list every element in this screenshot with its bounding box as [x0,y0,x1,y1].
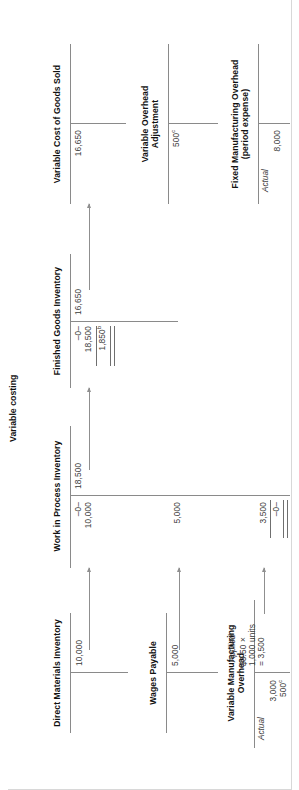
account-title-variable-overhead-adjustment-line2: Adjustment [150,38,161,210]
t-stem-fixed-manufacturing-overhead [258,123,290,124]
t-bar-direct-materials-inventory [70,613,71,733]
amount-vcogs-debit-1: 16,650 [73,130,83,194]
amount-vmoh-actual-2-superscript: c [277,680,283,683]
amount-vmoh-actual-1: 3,000 [268,680,278,742]
flow-arrow-vmoh-to-wip [264,568,265,614]
amount-voa-debit-1: 500c [171,130,181,194]
account-title-fixed-manufacturing-overhead-line1: Fixed Manufacturing Overhead [230,30,241,218]
t-bar-fixed-manufacturing-overhead [258,44,259,204]
amount-wip-debit-1: 10,000 [83,502,93,564]
account-title-variable-cost-of-goods-sold: Variable Cost of Goods Sold [52,38,63,210]
amount-wip-debit-3: 3,500 [258,502,268,564]
account-title-wages-payable: Wages Payable [148,608,159,738]
amount-fg-balance: 1,850b [97,326,107,390]
amount-dm-credit: 10,000 [74,640,84,666]
account-title-work-in-process-inventory: Work in Process Inventory [52,418,63,574]
t-bar-wages-payable [166,613,167,733]
flow-arrow-wip-to-fg [89,388,90,470]
amount-fmoh-debit-1: 8,000 [272,130,282,194]
t-stem-finished-goods-inventory [70,321,178,322]
amount-vmoh-actual-2-value: 500 [278,683,288,697]
t-bar-variable-cost-of-goods-sold [70,44,71,204]
t-bar-variable-overhead-adjustment [168,44,169,204]
amount-wip-beginning-balance: –0– [73,502,83,564]
t-stem-direct-materials-inventory [70,672,128,673]
amount-fg-debit-1: 18,500 [83,326,93,388]
amount-voa-debit-1-value: 500 [171,133,181,147]
page-edge-bottom [291,0,292,790]
account-title-direct-materials-inventory: Direct Materials Inventory [52,608,63,738]
t-stem-variable-cost-of-goods-sold [70,123,126,124]
t-bar-variable-manufacturing-overhead [254,600,255,748]
label-vmoh-applied: Applied [228,635,237,662]
t-stem-variable-overhead-adjustment [168,123,218,124]
amount-fg-balance-superscript: b [96,326,102,329]
amount-voa-debit-1-superscript: c [170,130,176,133]
account-title-variable-manufacturing-overhead-line1: Variable Manufacturing [226,590,237,756]
amount-wip-debit-2: 5,000 [172,502,182,564]
account-title-fixed-manufacturing-overhead-line2: (period expense) [240,30,251,218]
account-title-variable-manufacturing-overhead-line2: Overhead [236,590,247,756]
amount-vmoh-applied-3: = 3,500 [256,637,266,666]
t-stem-work-in-process-inventory [70,495,290,496]
figure-title: Variable costing [8,375,18,442]
account-title-variable-overhead-adjustment-line1: Variable Overhead [140,38,151,210]
t-stem-variable-manufacturing-overhead [254,672,290,673]
double-rule-wip [283,500,288,538]
rotated-figure-wrapper: Variable costing Direct Materials Invent… [0,0,299,790]
label-vmoh-actual: Actual [257,717,266,740]
amount-fg-credit: 16,650 [73,289,83,315]
variable-costing-flow-diagram: Variable costing Direct Materials Invent… [0,0,299,790]
flow-arrow-dm-to-wip [89,568,90,650]
t-stem-wages-payable [166,672,218,673]
t-bar-work-in-process-inventory [70,426,71,568]
amount-fg-beginning-balance: –0– [73,326,83,388]
amount-vmoh-actual-2: 500c [278,680,288,742]
double-rule-fg [110,326,115,366]
label-fmoh-actual: Actual [261,169,270,192]
amount-wip-ending-balance: –0– [271,502,281,564]
flow-arrow-fg-to-vcogs [89,204,90,290]
account-title-finished-goods-inventory: Finished Goods Inventory [52,248,63,394]
amount-fg-balance-value: 1,850 [97,329,107,350]
amount-wip-credit: 18,500 [73,463,83,489]
flow-arrow-wages-to-wip [179,568,180,650]
